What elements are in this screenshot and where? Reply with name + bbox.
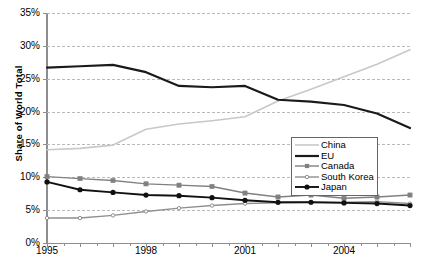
series-lines [47, 13, 410, 244]
data-point-marker [407, 203, 412, 208]
data-point-marker [275, 200, 280, 205]
data-point-marker [45, 216, 48, 219]
data-point-marker [342, 196, 346, 200]
data-point-marker [242, 198, 247, 203]
y-tick-label: 35% [6, 7, 40, 18]
data-point-marker [177, 206, 180, 209]
data-point-marker [375, 195, 379, 199]
y-tick-label: 20% [6, 106, 40, 117]
y-tick-label: 15% [6, 138, 40, 149]
plot-area [47, 13, 410, 243]
legend-label: China [320, 140, 346, 151]
data-point-marker [78, 177, 82, 181]
legend-swatch-icon [294, 161, 320, 171]
legend-item-japan[interactable]: Japan [294, 182, 374, 193]
y-tick-label: 5% [6, 204, 40, 215]
data-point-marker [110, 190, 115, 195]
data-point-marker [111, 214, 114, 217]
data-point-marker [209, 195, 214, 200]
data-point-marker [45, 175, 49, 179]
legend-swatch-icon [294, 140, 320, 150]
data-point-marker [143, 192, 148, 197]
data-point-marker [177, 183, 181, 187]
legend-item-china[interactable]: China [294, 140, 374, 151]
data-point-marker [144, 210, 147, 213]
y-axis-tick-labels: 0%5%10%15%20%25%30%35% [0, 0, 40, 274]
legend-label: Japan [320, 182, 347, 193]
data-point-marker [408, 193, 412, 197]
y-tick-label: 25% [6, 73, 40, 84]
data-point-marker [276, 195, 280, 199]
data-point-marker [210, 204, 213, 207]
data-point-marker [374, 201, 379, 206]
data-point-marker [78, 216, 81, 219]
y-tick-label: 10% [6, 171, 40, 182]
data-point-marker [341, 200, 346, 205]
data-point-marker [44, 179, 49, 184]
legend-swatch-icon [294, 172, 320, 182]
x-tick-mark [410, 243, 411, 247]
data-point-marker [210, 184, 214, 188]
data-point-marker [77, 187, 82, 192]
data-point-marker [111, 178, 115, 182]
line-chart: Share of World Total 0%5%10%15%20%25%30%… [0, 0, 421, 274]
y-tick-label: 30% [6, 40, 40, 51]
data-point-marker [176, 193, 181, 198]
data-point-marker [308, 200, 313, 205]
legend-swatch-icon [294, 182, 320, 192]
legend: ChinaEUCanadaSouth KoreaJapan [291, 137, 378, 196]
data-point-marker [144, 182, 148, 186]
legend-item-canada[interactable]: Canada [294, 161, 374, 172]
data-point-marker [243, 191, 247, 195]
legend-swatch-icon [294, 151, 320, 161]
legend-label: Canada [320, 161, 354, 172]
